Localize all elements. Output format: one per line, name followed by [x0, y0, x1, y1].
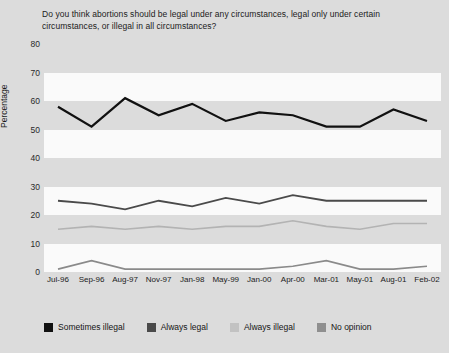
x-tick-label: Aug-01: [381, 275, 407, 284]
series-line: [58, 221, 427, 230]
legend-swatch-icon: [317, 323, 326, 332]
x-tick-label: May-01: [347, 275, 374, 284]
x-tick-label: Jan-98: [180, 275, 204, 284]
x-tick-label: Nov-97: [146, 275, 172, 284]
y-axis-label: Percentage: [0, 85, 9, 128]
y-tick-label: 60: [16, 96, 40, 106]
x-tick-label: Apr-00: [281, 275, 305, 284]
y-tick-label: 10: [16, 239, 40, 249]
legend-label: Always illegal: [244, 322, 295, 332]
x-tick-label: Feb-02: [414, 275, 439, 284]
x-tick-label: Aug-97: [112, 275, 138, 284]
x-axis: Jul-96Sep-96Aug-97Nov-97Jan-98May-99Jan-…: [44, 275, 441, 289]
y-tick-label: 0: [16, 267, 40, 277]
legend-label: Sometimes illegal: [58, 322, 125, 332]
x-tick-label: Jan-00: [247, 275, 271, 284]
series-line: [58, 195, 427, 209]
y-axis: 80706050403020100: [14, 44, 40, 272]
y-tick-label: 80: [16, 39, 40, 49]
y-tick-label: 70: [16, 68, 40, 78]
legend-item[interactable]: No opinion: [317, 322, 372, 332]
legend-item[interactable]: Sometimes illegal: [44, 322, 125, 332]
chart-root: Do you think abortions should be legal u…: [0, 0, 449, 353]
legend-item[interactable]: Always legal: [147, 322, 208, 332]
y-tick-label: 50: [16, 125, 40, 135]
y-tick-label: 30: [16, 182, 40, 192]
x-tick-label: Jul-96: [47, 275, 69, 284]
legend-label: Always legal: [161, 322, 208, 332]
legend-swatch-icon: [44, 323, 53, 332]
chart-title: Do you think abortions should be legal u…: [42, 8, 412, 32]
series-line: [58, 261, 427, 270]
series-lines: [44, 44, 441, 272]
legend-swatch-icon: [230, 323, 239, 332]
x-tick-label: Mar-01: [314, 275, 339, 284]
y-tick-label: 20: [16, 210, 40, 220]
series-line: [58, 98, 427, 127]
x-tick-label: May-99: [212, 275, 239, 284]
legend-swatch-icon: [147, 323, 156, 332]
legend-item[interactable]: Always illegal: [230, 322, 295, 332]
plot-area: [44, 44, 441, 272]
chart-legend: Sometimes illegalAlways legalAlways ille…: [44, 322, 394, 332]
legend-label: No opinion: [331, 322, 372, 332]
x-tick-label: Sep-96: [79, 275, 105, 284]
y-tick-label: 40: [16, 153, 40, 163]
